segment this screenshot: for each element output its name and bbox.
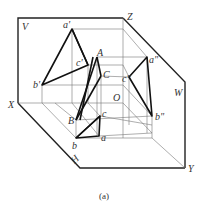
label-a-top: a [101, 132, 106, 143]
label-axis-y: Y [188, 163, 195, 174]
label-point-c: C [103, 69, 110, 80]
projector [123, 85, 152, 116]
label-b-top: b [72, 140, 77, 151]
label-plane-v: V [22, 21, 30, 32]
projector [99, 133, 152, 136]
projector [152, 138, 185, 168]
label-axis-z: Z [127, 11, 133, 22]
label-c-double-prime: c" [122, 73, 131, 84]
label-c-prime: c' [76, 57, 83, 68]
label-b-double-prime: b" [155, 111, 165, 122]
label-point-a: A [96, 47, 104, 58]
label-a-prime: a' [63, 19, 71, 30]
projector [76, 116, 152, 120]
space-edge-ac [97, 57, 101, 76]
projection-diagram: V Z W X Y H O a' b' c' A B C a b c a" b"… [0, 0, 209, 212]
figure-caption: (a) [99, 191, 109, 201]
side-view-triangle [129, 57, 152, 116]
label-a-double-prime: a" [149, 54, 159, 65]
label-origin-o: O [113, 92, 120, 103]
label-plane-w: W [174, 87, 184, 98]
label-c-top: c [102, 108, 107, 119]
label-b-prime: b' [33, 79, 41, 90]
projector [88, 103, 100, 116]
label-plane-h: H [68, 152, 82, 166]
label-axis-x: X [7, 99, 15, 110]
projector [123, 29, 147, 57]
label-point-b: B [68, 115, 74, 126]
construction-lines [18, 18, 185, 168]
